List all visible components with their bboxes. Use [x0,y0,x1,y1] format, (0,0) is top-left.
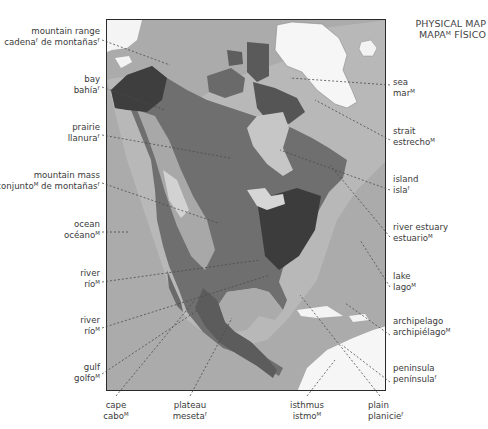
label-archipelago: archipelago archipiélagoᴹ [393,316,450,337]
label-strait: strait estrechoᴹ [393,126,435,147]
label-mountain-mass: mountain mass conjuntoᴹ de montañasᶠ [0,170,100,191]
title-spanish: MAPAᴹ FÍSICO [415,29,486,40]
label-river-estuary: river estuary estuarioᴹ [393,222,448,243]
label-mountain-range: mountain range cadenaᶠ de montañasᶠ [4,26,100,47]
map-title: PHYSICAL MAP MAPAᴹ FÍSICO [415,18,486,40]
label-gulf: gulf golfoᴹ [74,362,100,383]
label-river-1: river ríoᴹ [80,268,100,289]
label-island: island islaᶠ [393,174,418,195]
label-sea: sea marᴹ [393,77,415,98]
label-plateau: plateau mesetaᶠ [168,400,212,421]
title-english: PHYSICAL MAP [415,18,486,29]
label-river-2: river ríoᴹ [80,315,100,336]
physical-map [106,19,386,391]
label-prairie: prairie llanuraᶠ [68,122,100,143]
label-ocean: ocean océanoᴹ [64,219,100,240]
label-peninsula: peninsula penínsulaᶠ [393,363,437,384]
label-cape: cape caboᴹ [100,400,132,421]
label-lake: lake lagoᴹ [393,271,416,292]
label-bay: bay bahíaᶠ [74,74,100,95]
north-america-map-graphic [107,20,386,391]
label-isthmus: isthmus istmoᴹ [285,400,329,421]
label-plain: plain planicieᶠ [368,400,412,421]
